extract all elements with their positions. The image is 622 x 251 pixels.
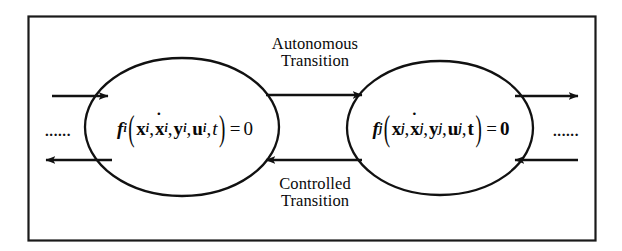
formula-f-right-subscript: j (379, 122, 382, 136)
right-ellipsis-label: ...... (544, 124, 588, 139)
autonomous-transition-line2: Transition (225, 53, 405, 70)
formula-overdot-left: ˙ (156, 110, 162, 127)
formula-comma-4-right: , (462, 118, 467, 140)
formula-x-left: x (136, 118, 146, 140)
formula-equals-left: = (230, 118, 241, 140)
controlled-transition-line2: Transition (225, 193, 405, 210)
autonomous-transition-label: Autonomous Transition (225, 36, 405, 70)
formula-close-paren-right: ) (475, 108, 481, 149)
formula-f-right: f (373, 118, 379, 140)
formula-u-left: u (192, 118, 203, 140)
formula-xdot-left: ˙x (155, 118, 165, 140)
formula-comma-4-left: , (206, 118, 211, 140)
formula-t-right: t (468, 118, 474, 140)
formula-comma-3-right: , (442, 118, 447, 140)
formula-t-left: t (212, 118, 217, 140)
formula-comma-2-right: , (423, 118, 428, 140)
formula-y-right: y (429, 118, 439, 140)
controlled-transition-label: Controlled Transition (225, 176, 405, 210)
formula-overdot-right: ˙ (412, 110, 418, 127)
formula-u-right: u (448, 118, 459, 140)
formula-open-paren-right: ( (384, 108, 390, 149)
formula-zero-left: 0 (243, 118, 253, 140)
formula-open-paren-left: ( (128, 108, 134, 149)
formula-x-right: x (392, 118, 402, 140)
formula-comma-2-left: , (168, 118, 173, 140)
formula-equals-right: = (486, 118, 497, 140)
formula-comma-1-left: , (149, 118, 154, 140)
formula-y-left: y (174, 118, 184, 140)
left-state-formula: fi(xi,˙xi,yi,ui,t)=0 (95, 112, 275, 146)
formula-comma-3-left: , (187, 118, 192, 140)
formula-xdot-right: ˙x (410, 118, 420, 140)
right-state-formula: fj(xj,˙xj,yj,uj,t)=0 (352, 112, 530, 146)
formula-f-left-subscript: i (124, 122, 127, 136)
formula-f-left: f (117, 118, 123, 140)
formula-zero-right: 0 (500, 118, 510, 140)
left-ellipsis-label: ...... (36, 124, 80, 139)
figure-root: Autonomous Transition Controlled Transit… (0, 0, 622, 251)
formula-comma-1-right: , (405, 118, 410, 140)
formula-close-paren-left: ) (219, 108, 225, 149)
